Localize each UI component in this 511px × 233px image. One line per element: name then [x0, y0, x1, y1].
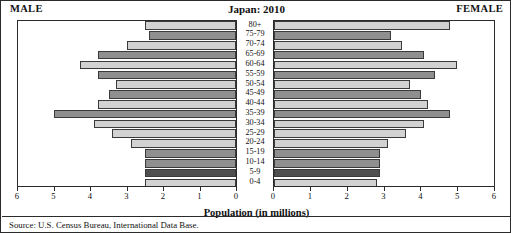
bar-male: [145, 179, 236, 187]
axis-tick-label: 6: [484, 191, 504, 201]
axis-tick-label: 1: [300, 191, 320, 201]
bar-female: [274, 90, 421, 99]
bar-male: [149, 31, 236, 40]
bar-male: [145, 159, 236, 168]
figure-header: MALE Japan: 2010 FEMALE: [1, 1, 511, 20]
axis-tick-label: 0: [263, 191, 283, 201]
bar-female: [274, 110, 450, 119]
age-group-label: 10-14: [237, 157, 273, 167]
bar-male: [112, 129, 236, 138]
axis-tick-label: 4: [410, 191, 430, 201]
age-group-label: 30-34: [237, 118, 273, 128]
bar-male: [127, 41, 236, 50]
axis-tick-label: 5: [44, 191, 64, 201]
source-note: Source: U.S. Census Bureau, Internationa…: [9, 220, 199, 230]
bar-male: [54, 110, 236, 119]
age-group-label: 80+: [237, 20, 273, 30]
bar-female: [274, 129, 406, 138]
age-group-label: 20-24: [237, 137, 273, 147]
male-bars-panel: [17, 20, 237, 187]
source-divider: [2, 216, 511, 217]
age-group-label: 35-39: [237, 108, 273, 118]
bar-female: [274, 100, 428, 109]
bar-female: [274, 51, 424, 60]
pyramid-plot: 80+75-7970-7465-6960-6455-5950-5445-4940…: [17, 20, 496, 187]
axis-tick-label: 4: [80, 191, 100, 201]
bar-male: [145, 149, 236, 158]
axis-tick-label: 2: [337, 191, 357, 201]
axis-tick-label: 3: [374, 191, 394, 201]
bar-female: [274, 169, 380, 178]
bar-female: [274, 120, 424, 129]
bar-female: [274, 179, 377, 187]
bar-male: [145, 169, 236, 178]
bar-female: [274, 41, 402, 50]
male-axis: 6543210: [17, 187, 237, 206]
bar-female: [274, 139, 388, 148]
bar-female: [274, 71, 435, 80]
axis-tick-label: 2: [153, 191, 173, 201]
bar-male: [145, 21, 236, 30]
bar-male: [98, 100, 236, 109]
bar-male: [116, 80, 236, 89]
age-group-label: 15-19: [237, 147, 273, 157]
bar-male: [94, 120, 236, 129]
bar-female: [274, 159, 380, 168]
age-group-label: 40-44: [237, 98, 273, 108]
age-group-labels: 80+75-7970-7465-6960-6455-5950-5445-4940…: [237, 20, 273, 187]
bar-male: [109, 90, 236, 99]
figure-container: MALE Japan: 2010 FEMALE 80+75-7970-7465-…: [0, 0, 511, 233]
bar-female: [274, 61, 457, 70]
bar-female: [274, 31, 391, 40]
axis-tick-label: 0: [226, 191, 246, 201]
female-axis: 0123456: [273, 187, 495, 206]
age-group-label: 5-9: [237, 167, 273, 177]
chart-title: Japan: 2010: [1, 3, 511, 15]
bar-female: [274, 21, 450, 30]
bar-male: [80, 61, 236, 70]
age-group-label: 25-29: [237, 128, 273, 138]
age-group-label: 70-74: [237, 39, 273, 49]
axis-tick-label: 1: [190, 191, 210, 201]
bar-male: [98, 51, 236, 60]
bar-female: [274, 149, 380, 158]
age-group-label: 65-69: [237, 49, 273, 59]
axis-tick-label: 6: [7, 191, 27, 201]
age-group-label: 75-79: [237, 29, 273, 39]
age-group-label: 55-59: [237, 69, 273, 79]
age-group-label: 60-64: [237, 59, 273, 69]
age-group-label: 50-54: [237, 79, 273, 89]
age-group-label: 45-49: [237, 88, 273, 98]
bar-male: [131, 139, 236, 148]
axis-tick-label: 5: [447, 191, 467, 201]
female-bars-panel: [273, 20, 495, 187]
axis-tick-label: 3: [117, 191, 137, 201]
age-group-label: 0-4: [237, 177, 273, 187]
bar-female: [274, 80, 410, 89]
bar-male: [98, 71, 236, 80]
female-side-label: FEMALE: [456, 3, 503, 14]
